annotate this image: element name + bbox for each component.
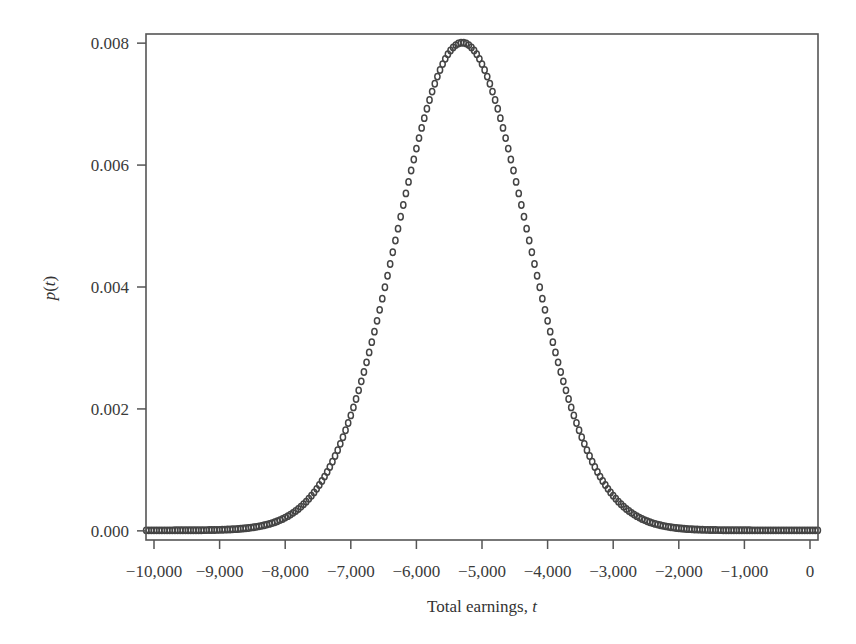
data-point [582, 441, 587, 447]
data-point [516, 190, 521, 196]
data-point [351, 404, 356, 410]
data-point [380, 295, 385, 301]
x-tick-label: −2,000 [655, 562, 703, 581]
x-tick-label: −7,000 [327, 562, 375, 581]
data-point [571, 412, 576, 418]
data-point [419, 125, 424, 131]
data-point [576, 427, 581, 433]
data-point [398, 214, 403, 220]
data-point [548, 328, 553, 334]
data-point [401, 202, 406, 208]
data-point [558, 369, 563, 375]
x-tick-label: −5,000 [458, 562, 506, 581]
data-point [500, 125, 505, 131]
data-point [521, 214, 526, 220]
data-point [427, 97, 432, 103]
data-point [540, 295, 545, 301]
data-point [361, 369, 366, 375]
data-point [406, 179, 411, 185]
data-point [359, 378, 364, 384]
data-point [569, 404, 574, 410]
x-tick-label: −9,000 [196, 562, 244, 581]
data-point [556, 359, 561, 365]
data-point [490, 88, 495, 94]
data-point [514, 179, 519, 185]
data-point [340, 434, 345, 440]
data-point [409, 167, 414, 173]
x-tick-label: −3,000 [589, 562, 637, 581]
data-point [393, 237, 398, 243]
data-point [377, 307, 382, 313]
data-point [574, 420, 579, 426]
data-point [424, 106, 429, 112]
data-point [561, 378, 566, 384]
data-point [487, 81, 492, 87]
data-point [364, 359, 369, 365]
y-tick-label: 0.008 [91, 34, 129, 53]
data-point [550, 339, 555, 345]
data-point [495, 106, 500, 112]
y-axis-title: p(t) [40, 276, 59, 302]
data-point [372, 328, 377, 334]
data-point [432, 81, 437, 87]
data-point [519, 202, 524, 208]
data-point [511, 167, 516, 173]
data-point [416, 135, 421, 141]
data-point [369, 339, 374, 345]
data-point [482, 67, 487, 73]
data-point [527, 237, 532, 243]
data-point [508, 156, 513, 162]
data-point [566, 396, 571, 402]
data-point [430, 88, 435, 94]
data-point [579, 434, 584, 440]
data-markers [144, 40, 821, 534]
data-point [335, 447, 340, 453]
data-point [498, 115, 503, 121]
data-point [414, 145, 419, 151]
x-axis-title: Total earnings, t [427, 597, 538, 616]
data-point [346, 420, 351, 426]
y-tick-label: 0.004 [91, 278, 130, 297]
data-point [485, 73, 490, 79]
x-tick-label: −1,000 [720, 562, 768, 581]
x-tick-label: −10,000 [126, 562, 182, 581]
data-point [385, 273, 390, 279]
data-point [435, 73, 440, 79]
data-point [563, 387, 568, 393]
y-tick-label: 0.000 [91, 522, 129, 541]
data-point [524, 225, 529, 231]
data-point [356, 387, 361, 393]
data-point [532, 261, 537, 267]
data-point [348, 412, 353, 418]
data-point [545, 318, 550, 324]
data-point [367, 349, 372, 355]
x-tick-label: −6,000 [392, 562, 440, 581]
data-point [506, 145, 511, 151]
data-point [390, 249, 395, 255]
data-point [529, 249, 534, 255]
data-point [382, 284, 387, 290]
data-point [503, 135, 508, 141]
x-tick-label: 0 [806, 562, 815, 581]
x-tick-label: −4,000 [524, 562, 572, 581]
plot-frame [146, 34, 818, 540]
y-tick-label: 0.002 [91, 400, 129, 419]
chart: −10,000−9,000−8,000−7,000−6,000−5,000−4,… [0, 0, 856, 644]
data-point [338, 441, 343, 447]
x-tick-label: −8,000 [261, 562, 309, 581]
data-point [374, 318, 379, 324]
y-axis: 0.0000.0020.0040.0060.008 [91, 34, 146, 541]
data-point [395, 225, 400, 231]
data-point [343, 427, 348, 433]
data-point [422, 115, 427, 121]
data-point [542, 307, 547, 313]
y-tick-label: 0.006 [91, 156, 129, 175]
x-axis: −10,000−9,000−8,000−7,000−6,000−5,000−4,… [126, 540, 814, 581]
data-point [553, 349, 558, 355]
data-point [493, 97, 498, 103]
data-point [535, 273, 540, 279]
data-point [388, 261, 393, 267]
data-point [537, 284, 542, 290]
data-point [353, 396, 358, 402]
data-point [411, 156, 416, 162]
